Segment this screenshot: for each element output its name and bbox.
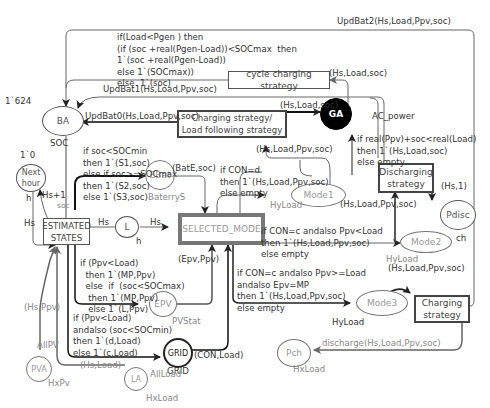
arc-est-to-epv: if (Ppv<Load) then 1`(MP,Ppv) else if (s… <box>80 258 185 316</box>
place-mode2[interactable]: Mode2 <box>400 231 452 253</box>
pch-color-set: HxLoad <box>293 364 325 376</box>
place-pdisc[interactable]: Pdisc <box>440 200 476 230</box>
arc-la-to-est: (Hs,Load) <box>80 360 121 372</box>
place-l-label: L <box>124 222 129 233</box>
arc-est-to-l: Hs <box>98 217 109 229</box>
place-pch[interactable]: Pch <box>277 339 311 367</box>
transition-selected-mode[interactable]: SELECTED_MODE <box>178 213 265 245</box>
ga-color-set: AC_power <box>372 111 415 123</box>
arc-sel-to-mode3: if CON=c andalso Ppv>=Load andalso Epv=M… <box>237 268 366 314</box>
la-fusion-tag: AllLoad <box>150 369 181 381</box>
arc-charging-to-pch: discharge(Hs,Load,Ppv,soc) <box>322 338 441 350</box>
pdisc-color-set: ch <box>456 233 466 245</box>
transition-charging-label: Charging strategy <box>422 297 463 321</box>
arc-mode1-to-discharge: (Hs,Load,Ppv,soc) <box>340 199 417 211</box>
place-la[interactable]: LA <box>124 367 148 391</box>
pva-color-set: HxPv <box>48 378 70 390</box>
arc-mode1-to-clf: (Hs,Load,Ppv,soc) <box>256 144 333 156</box>
place-next-hour-label: Next hour <box>22 167 41 189</box>
arc-l-to-mode: Hs <box>150 217 161 229</box>
arc-upd-bat0: UpdBat0(Hs,Load,Ppv,soc) <box>85 111 199 123</box>
place-pdisc-label: Pdisc <box>446 210 469 221</box>
la-color-set: HxLoad <box>146 393 178 405</box>
arc-upd-bat1: UpdBat1(Hs,Load,Ppv,soc) <box>103 84 217 96</box>
place-la-label: LA <box>131 374 141 385</box>
arc-soc: soc <box>57 200 70 212</box>
l-color-set: h <box>136 236 141 248</box>
arc-ga-to-cycle: (Hs,Load,soc) <box>329 68 387 80</box>
transition-estimated-states[interactable]: ESTIMATED STATES <box>43 218 90 245</box>
arc-grid-to-mode: (CON,Load) <box>194 350 243 362</box>
place-pva-label: PVA <box>31 364 46 375</box>
arc-cycle-to-ba: if(Load<Pgen ) then (if (soc +real(Pgen-… <box>117 32 297 90</box>
arc-ebat-to-mode: (BatE,soc) <box>172 163 216 175</box>
pva-fusion-tag: AllPV <box>37 340 59 352</box>
arc-est-to-grid: if (Ppv<Load) andalso (soc<SOCmin) then … <box>73 313 172 359</box>
place-mode3-label: Mode3 <box>367 298 397 309</box>
transition-discharging-label: Discharging strategy <box>379 166 432 190</box>
arc-est-to-ebat: if soc<SOCmin then 1`(S1,soc) else if so… <box>83 146 177 204</box>
transition-charging[interactable]: Charging strategy <box>414 295 470 323</box>
place-mode2-label: Mode2 <box>411 237 441 248</box>
arc-mode2-out: (Hs,Load,Ppv,soc) <box>388 263 465 275</box>
place-l[interactable]: L <box>115 216 139 238</box>
arc-sel-to-mode2: if CON=c andalso Ppv<Load then 1`(Hs,Loa… <box>261 226 383 261</box>
arc-upd-bat2: UpdBat2(Hs,Load,Ppv,soc) <box>337 16 451 28</box>
arc-clf-to-ga: (Hs,Load,soc) <box>280 100 338 112</box>
place-ba[interactable]: BA <box>42 106 84 136</box>
place-ba-label: BA <box>57 116 69 127</box>
arc-discharge-to-pdisc: (Hs,1) <box>441 181 467 193</box>
place-next-hour[interactable]: Next hour <box>16 164 46 192</box>
arc-pva-to-est: (Hs,Ppv) <box>24 302 60 314</box>
mode1-color-set: HyLoad <box>270 200 302 212</box>
ba-color-set: SOC <box>50 138 68 150</box>
arc-next-hour-to-est: Hs <box>24 218 35 230</box>
mode3-color-set: HyLoad <box>332 317 364 329</box>
epv-color-set: PVStat <box>172 316 201 328</box>
transition-estimated-states-label: ESTIMATED STATES <box>42 220 91 244</box>
transition-selected-mode-label: SELECTED_MODE <box>182 223 260 235</box>
arc-discharge-to-ga: if real(Ppv)+soc<real(Load) then 1`(Hs,L… <box>357 134 476 169</box>
place-pch-label: Pch <box>286 348 302 359</box>
next-hour-initial-marking: 1`0 <box>20 150 35 162</box>
next-hour-color-set: h <box>26 193 31 205</box>
arc-sel-to-mode1: if CON=d then 1`(Hs,Load,Ppv,soc) else e… <box>220 165 329 200</box>
ba-initial-marking: 1`624 <box>5 96 31 108</box>
